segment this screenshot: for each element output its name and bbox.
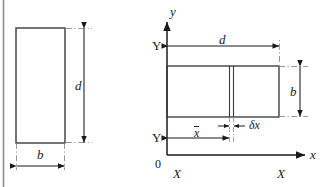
- centroid-distance-label: x: [194, 126, 199, 139]
- right-section-rectangle: [167, 66, 279, 117]
- centroid-distance-symbol: x: [194, 126, 199, 139]
- right-breadth-label: b: [290, 85, 297, 98]
- centroid-axis-label-left: X: [173, 167, 181, 180]
- left-breadth-label: b: [37, 148, 44, 161]
- strip-width-label: δx: [249, 119, 260, 131]
- diagram-canvas: d b y x 0 Y Y X X d b x δx: [0, 0, 327, 187]
- right-depth-label: d: [219, 33, 226, 46]
- centroid-axis-label-right: X: [277, 167, 285, 180]
- y-axis-label: y: [170, 5, 176, 18]
- x-axis-label: x: [310, 148, 316, 161]
- origin-label: 0: [155, 158, 161, 170]
- left-section-rectangle: [16, 28, 65, 143]
- neutral-axis-label-bottom: Y: [152, 131, 161, 144]
- left-depth-label: d: [75, 79, 82, 92]
- neutral-axis-label-top: Y: [152, 39, 161, 52]
- diagram-vector-layer: [0, 0, 327, 187]
